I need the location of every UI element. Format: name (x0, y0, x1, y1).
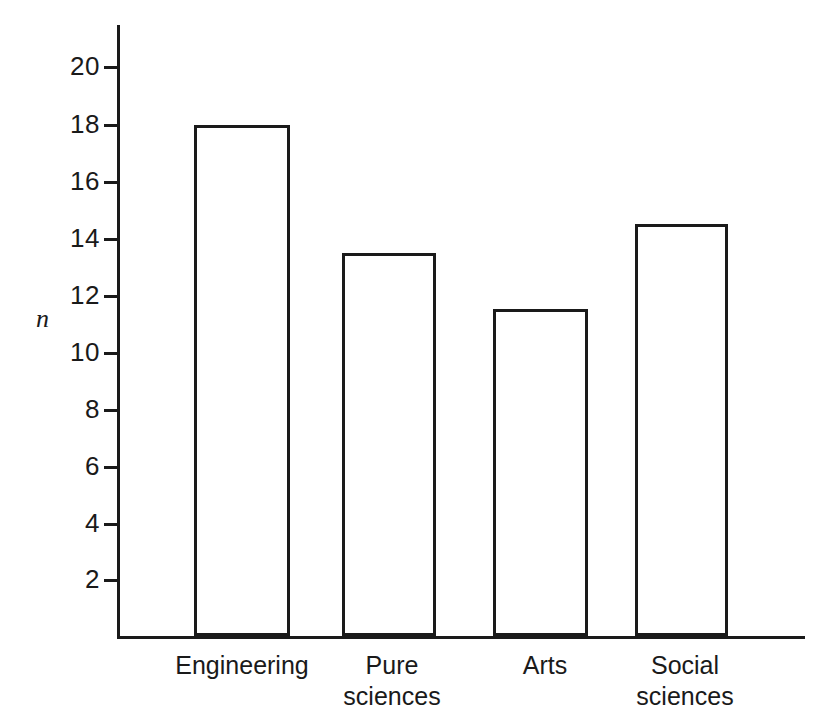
y-tick-label-wrap: 4 (38, 510, 100, 536)
y-tick-label: 16 (40, 168, 100, 194)
y-tick-label: 20 (40, 53, 100, 79)
y-tick-label: 18 (40, 111, 100, 137)
y-tick-mark (104, 66, 118, 69)
y-tick-label-wrap: 10 (38, 339, 100, 365)
bar-chart: n 2468101214161820 EngineeringPure scien… (0, 0, 833, 724)
y-tick-mark (104, 523, 118, 526)
y-tick-label: 8 (40, 396, 100, 422)
y-tick-label: 6 (40, 453, 100, 479)
y-tick-label: 10 (40, 339, 100, 365)
bar (194, 125, 290, 636)
y-axis-title: n (36, 306, 49, 332)
y-tick-label-wrap: 8 (38, 396, 100, 422)
y-tick-label-wrap: 2 (38, 566, 100, 592)
y-tick-mark (104, 181, 118, 184)
y-tick-mark (104, 352, 118, 355)
y-tick-label-wrap: 12 (38, 282, 100, 308)
y-tick-label: 12 (40, 282, 100, 308)
y-tick-label-wrap: 6 (38, 453, 100, 479)
bar (635, 224, 728, 636)
y-tick-mark (104, 238, 118, 241)
y-tick-label: 4 (40, 510, 100, 536)
y-tick-mark (104, 466, 118, 469)
y-tick-label-wrap: 14 (38, 225, 100, 251)
y-tick-mark (104, 409, 118, 412)
y-tick-label: 14 (40, 225, 100, 251)
y-tick-label-wrap: 20 (38, 53, 100, 79)
y-tick-mark (104, 295, 118, 298)
y-tick-mark (104, 579, 118, 582)
y-tick-mark (104, 124, 118, 127)
y-tick-label-wrap: 16 (38, 168, 100, 194)
x-category-label: Social sciences (600, 650, 770, 712)
y-axis-line (117, 25, 120, 639)
x-axis-line (117, 636, 805, 639)
y-tick-label-wrap: 18 (38, 111, 100, 137)
y-tick-label: 2 (40, 566, 100, 592)
x-category-label: Arts (470, 650, 620, 681)
bar (493, 309, 588, 636)
bar (342, 253, 436, 636)
x-category-label: Pure sciences (312, 650, 472, 712)
